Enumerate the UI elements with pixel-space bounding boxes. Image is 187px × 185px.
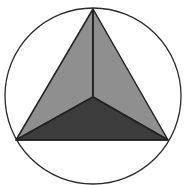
tetrahedron-diagram (0, 0, 187, 185)
diagram-canvas (0, 0, 187, 185)
